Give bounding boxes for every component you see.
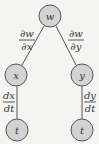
node-t-left: t (6, 119, 28, 141)
label-dy-dt: dy dt (84, 90, 96, 114)
svg-text:∂x: ∂x (22, 41, 33, 52)
label-dx-dt: dx dt (3, 90, 15, 114)
svg-text:dx: dx (3, 90, 15, 101)
svg-text:dt: dt (4, 103, 15, 114)
svg-text:∂y: ∂y (71, 41, 82, 52)
svg-text:x: x (13, 70, 19, 81)
svg-text:w: w (46, 11, 55, 22)
node-y: y (71, 64, 93, 86)
node-t-right: t (71, 119, 93, 141)
svg-text:dy: dy (84, 90, 96, 101)
svg-text:∂w: ∂w (69, 28, 83, 39)
label-dw-dy: ∂w ∂y (68, 28, 84, 52)
svg-text:dt: dt (85, 103, 96, 114)
svg-text:y: y (78, 70, 85, 81)
chain-rule-tree-diagram: ∂w ∂x ∂w ∂y dx dt dy dt w x y t t (0, 0, 99, 144)
label-dw-dx: ∂w ∂x (19, 28, 35, 52)
svg-text:∂w: ∂w (20, 28, 34, 39)
node-w: w (39, 5, 61, 27)
node-x: x (5, 64, 27, 86)
